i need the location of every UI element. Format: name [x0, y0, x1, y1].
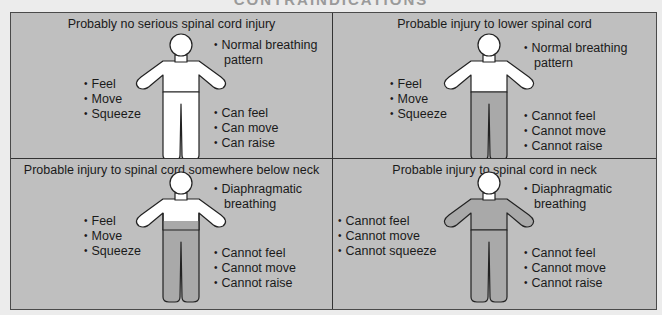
arm-function-list: Feel Move Squeeze — [390, 77, 447, 122]
breathing-item: Diaphragmatic — [524, 182, 612, 197]
page-title: CONTRAINDICATIONS — [0, 0, 662, 8]
arm-function-item: Squeeze — [84, 244, 141, 259]
leg-function-list: Cannot feel Cannot move Cannot raise — [214, 246, 296, 291]
leg-function-list: Cannot feel Cannot move Cannot raise — [524, 246, 606, 291]
arm-function-item: Move — [84, 92, 141, 107]
breathing-list: Diaphragmatic breathing — [524, 182, 612, 212]
leg-function-item: Can raise — [214, 136, 279, 151]
arm-function-item: Move — [84, 229, 141, 244]
leg-function-item: Can feel — [214, 106, 279, 121]
arm-function-item: Cannot squeeze — [338, 244, 437, 259]
arm-function-item: Feel — [84, 214, 141, 229]
arm-function-list: Cannot feel Cannot move Cannot squeeze — [338, 214, 437, 259]
leg-function-item: Can move — [214, 121, 279, 136]
breathing-list: Normal breathing pattern — [214, 38, 317, 68]
leg-function-item: Cannot move — [214, 261, 296, 276]
breathing-list: Diaphragmatic breathing — [214, 182, 302, 212]
breathing-item: breathing — [524, 197, 612, 212]
breathing-item: Diaphragmatic — [214, 182, 302, 197]
breathing-item: pattern — [524, 56, 627, 71]
arm-function-item: Feel — [84, 77, 141, 92]
arm-function-item: Cannot feel — [338, 214, 437, 229]
panel-no-serious-injury: Probably no serious spinal cord injury N… — [11, 13, 333, 159]
arm-function-list: Feel Move Squeeze — [84, 77, 141, 122]
leg-function-item: Cannot move — [524, 261, 606, 276]
body-figure-icon — [11, 13, 333, 159]
panel-lower-spinal-cord: Probable injury to lower spinal cord Nor… — [333, 13, 656, 159]
breathing-item: breathing — [214, 197, 302, 212]
leg-function-item: Cannot raise — [524, 276, 606, 291]
body-figure-icon — [333, 13, 656, 159]
leg-function-item: Cannot feel — [214, 246, 296, 261]
leg-function-item: Cannot move — [524, 124, 606, 139]
breathing-item: Normal breathing — [214, 38, 317, 53]
arm-function-item: Squeeze — [390, 107, 447, 122]
panel-neck: Probable injury to spinal cord in neck D… — [333, 159, 656, 309]
breathing-item: Normal breathing — [524, 41, 627, 56]
leg-function-list: Cannot feel Cannot move Cannot raise — [524, 109, 606, 154]
breathing-item: pattern — [214, 53, 317, 68]
arm-function-item: Squeeze — [84, 107, 141, 122]
leg-function-item: Cannot raise — [214, 276, 296, 291]
leg-function-item: Cannot raise — [524, 139, 606, 154]
arm-function-item: Move — [390, 92, 447, 107]
arm-function-item: Feel — [390, 77, 447, 92]
arm-function-item: Cannot move — [338, 229, 437, 244]
arm-function-list: Feel Move Squeeze — [84, 214, 141, 259]
leg-function-list: Can feel Can move Can raise — [214, 106, 279, 151]
leg-function-item: Cannot feel — [524, 246, 606, 261]
leg-function-item: Cannot feel — [524, 109, 606, 124]
panel-below-neck: Probable injury to spinal cord somewhere… — [11, 159, 333, 309]
breathing-list: Normal breathing pattern — [524, 41, 627, 71]
spinal-injury-assessment-grid: Probably no serious spinal cord injury N… — [10, 12, 657, 310]
